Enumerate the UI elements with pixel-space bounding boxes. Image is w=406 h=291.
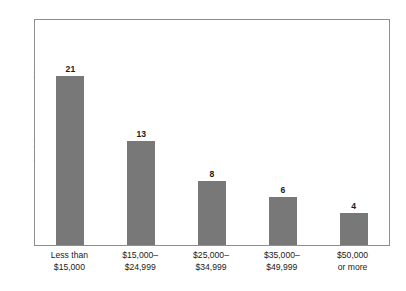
bar-rect [269, 197, 297, 245]
x-tick-label-4: $35,000–$49,999 [243, 250, 321, 273]
bar-rect [56, 76, 84, 245]
x-tick-label-line: $25,000– [172, 250, 250, 262]
x-tick-label-line: $15,000– [101, 250, 179, 262]
bar-chart-figure: Percent of Adults Age 18 or Older 211386… [0, 0, 406, 291]
bar-value-label-3: 8 [192, 169, 232, 179]
bar-rect [340, 213, 368, 245]
x-tick-label-line: $24,999 [101, 262, 179, 274]
plot-area: 2113864 [34, 19, 390, 246]
x-tick-label-line: Less than [30, 250, 108, 262]
x-tick-label-5: $50,000or more [314, 250, 392, 273]
bar-value-label-2: 13 [121, 129, 161, 139]
bar-value-label-5: 4 [334, 201, 374, 211]
bar-1 [35, 20, 106, 245]
x-tick-label-line: $50,000 [314, 250, 392, 262]
plot-inner: 2113864 [35, 20, 389, 245]
bar-rect [127, 141, 155, 245]
x-tick-label-line: $34,999 [172, 262, 250, 274]
x-tick-label-line: or more [314, 262, 392, 274]
x-tick-label-2: $15,000–$24,999 [101, 250, 179, 273]
x-axis-labels: Less than$15,000$15,000–$24,999$25,000–$… [34, 250, 390, 284]
bar-3 [177, 20, 248, 245]
x-tick-label-3: $25,000–$34,999 [172, 250, 250, 273]
x-tick-label-line: $35,000– [243, 250, 321, 262]
x-tick-label-line: $15,000 [30, 262, 108, 274]
bar-value-label-4: 6 [263, 185, 303, 195]
bar-rect [198, 181, 226, 245]
x-tick-label-line: $49,999 [243, 262, 321, 274]
bar-value-label-1: 21 [50, 64, 90, 74]
bar-4 [247, 20, 318, 245]
bar-5 [318, 20, 389, 245]
x-tick-label-1: Less than$15,000 [30, 250, 108, 273]
